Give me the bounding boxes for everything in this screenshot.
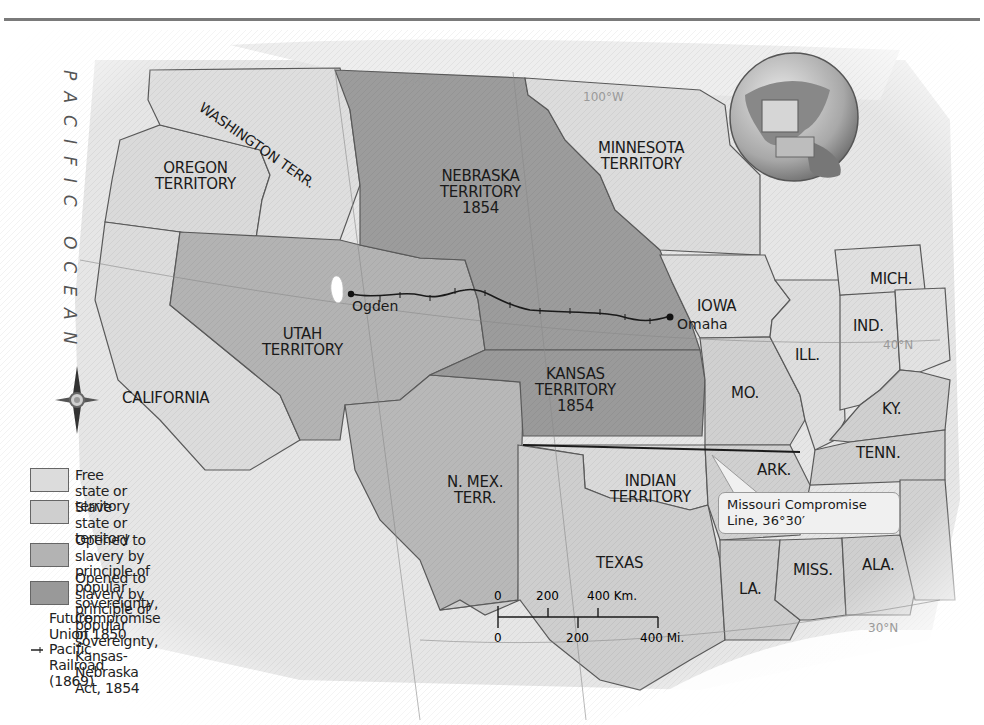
tennessee-label: TENN.: [856, 445, 900, 461]
scale-km-400: 400 Km.: [587, 589, 637, 603]
locator-globe: [730, 53, 858, 181]
longitude-100w-label: 100°W: [583, 90, 624, 104]
longitude-110w-label: 110°W: [402, 73, 443, 87]
scale-mi-200: 200: [566, 631, 589, 645]
kentucky-label: KY.: [882, 401, 901, 417]
ogden-dot: [348, 291, 354, 297]
missouri-label: MO.: [731, 385, 759, 401]
legend-swatch-free: [30, 468, 69, 492]
minnesota-territory-label: MINNESOTA TERRITORY: [598, 140, 684, 172]
scale-mi-0: 0: [494, 631, 502, 645]
pacific-ocean-label: PACIFIC OCEAN: [40, 70, 80, 400]
indiana-label: IND.: [853, 318, 884, 334]
kansas-territory-label: KANSAS TERRITORY 1854: [535, 366, 616, 415]
oregon-territory-label: OREGON TERRITORY: [155, 160, 236, 192]
arkansas-label: ARK.: [757, 462, 791, 478]
iowa-label: IOWA: [697, 298, 736, 314]
latitude-40n-label: 40°N: [883, 338, 913, 352]
legend-swatch-slave: [30, 500, 69, 524]
new-mexico-territory-label: N. MEX. TERR.: [447, 474, 503, 506]
louisiana-label: LA.: [739, 581, 762, 597]
scale-km-0: 0: [494, 589, 502, 603]
scale-km-200: 200: [536, 589, 559, 603]
california-label: CALIFORNIA: [122, 390, 209, 406]
scale-mi-400: 400 Mi.: [640, 631, 684, 645]
utah-territory-label: UTAH TERRITORY: [262, 326, 343, 358]
legend-swatch-1854: [30, 581, 69, 605]
mississippi-label: MISS.: [793, 562, 833, 578]
ogden-label: Ogden: [352, 298, 398, 314]
illinois-label: ILL.: [795, 347, 820, 363]
legend-item-railroad: Future Union Pacific Railroad (1869): [30, 611, 130, 689]
omaha-dot: [667, 314, 674, 321]
missouri-compromise-callout: Missouri Compromise Line, 36°30′: [718, 492, 900, 534]
railroad-line-icon: [30, 645, 43, 655]
nebraska-territory-label: NEBRASKA TERRITORY 1854: [440, 168, 521, 217]
michigan-label: MICH.: [870, 271, 912, 287]
indian-territory-label: INDIAN TERRITORY: [610, 473, 691, 505]
alabama-label: ALA.: [862, 557, 895, 573]
omaha-label: Omaha: [677, 316, 728, 332]
texas-label: TEXAS: [596, 555, 643, 571]
latitude-30n-label: 30°N: [868, 621, 898, 635]
legend-swatch-1850: [30, 543, 69, 567]
